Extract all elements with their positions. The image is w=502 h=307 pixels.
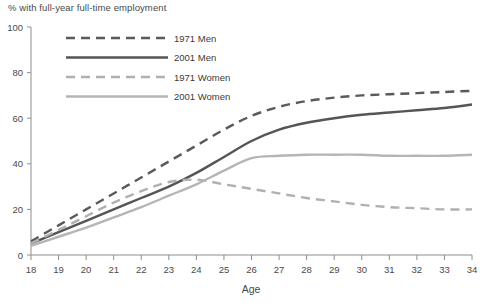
y-tick-label: 20 xyxy=(12,204,23,215)
series-line xyxy=(31,91,472,241)
chart-container: % with full-year full-time employment 02… xyxy=(0,0,502,307)
x-tick-label: 27 xyxy=(274,264,285,275)
legend-label: 1971 Women xyxy=(174,72,230,83)
x-tick-label: 28 xyxy=(301,264,312,275)
y-tick-label: 80 xyxy=(12,67,23,78)
series-lines xyxy=(31,91,472,246)
x-tick-label: 24 xyxy=(191,264,202,275)
x-tick-label: 18 xyxy=(26,264,37,275)
x-tick-label: 23 xyxy=(164,264,175,275)
x-tick-label: 31 xyxy=(384,264,395,275)
x-axis: 1819202122232425262728293031323334 xyxy=(26,255,478,275)
chart-legend: 1971 Men2001 Men1971 Women2001 Women xyxy=(66,33,230,103)
legend-label: 1971 Men xyxy=(174,33,216,44)
line-chart-plot: 020406080100 181920212223242526272829303… xyxy=(0,0,502,307)
x-axis-title: Age xyxy=(0,283,502,295)
y-axis: 020406080100 xyxy=(7,22,31,261)
x-tick-label: 30 xyxy=(356,264,367,275)
series-line xyxy=(31,180,472,244)
y-tick-label: 100 xyxy=(7,22,23,33)
x-tick-label: 29 xyxy=(329,264,340,275)
x-tick-label: 26 xyxy=(246,264,257,275)
series-line xyxy=(31,155,472,246)
x-tick-label: 20 xyxy=(81,264,92,275)
legend-label: 2001 Men xyxy=(174,52,216,63)
x-tick-label: 21 xyxy=(108,264,119,275)
y-tick-label: 60 xyxy=(12,113,23,124)
y-tick-label: 40 xyxy=(12,158,23,169)
x-tick-label: 33 xyxy=(439,264,450,275)
x-tick-label: 25 xyxy=(219,264,230,275)
x-tick-label: 19 xyxy=(53,264,64,275)
legend-label: 2001 Women xyxy=(174,91,230,102)
x-tick-label: 34 xyxy=(467,264,478,275)
y-tick-label: 0 xyxy=(18,250,23,261)
x-tick-label: 32 xyxy=(412,264,423,275)
x-tick-label: 22 xyxy=(136,264,147,275)
